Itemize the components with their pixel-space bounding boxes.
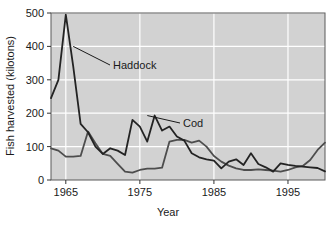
x-tick-label: 1965 (54, 186, 78, 198)
y-axis-title: Fish harvested (kilotons) (4, 36, 16, 156)
plot-area-background (51, 13, 325, 180)
x-tick-label: 1985 (202, 186, 226, 198)
x-axis-title: Year (157, 206, 180, 218)
x-tick-label: 1995 (276, 186, 300, 198)
figure-container: 0100200300400500 1965197519851995 Haddoc… (0, 0, 335, 227)
y-tick-label: 0 (38, 174, 44, 186)
y-tick-label: 200 (26, 107, 44, 119)
fish-harvest-line-chart: 0100200300400500 1965197519851995 Haddoc… (0, 0, 335, 227)
y-tick-label: 500 (26, 7, 44, 19)
series-label-haddock: Haddock (113, 59, 157, 71)
y-tick-label: 300 (26, 74, 44, 86)
y-tick-label: 400 (26, 40, 44, 52)
x-tick-label: 1975 (128, 186, 152, 198)
y-tick-label: 100 (26, 141, 44, 153)
series-label-cod: Cod (183, 117, 203, 129)
